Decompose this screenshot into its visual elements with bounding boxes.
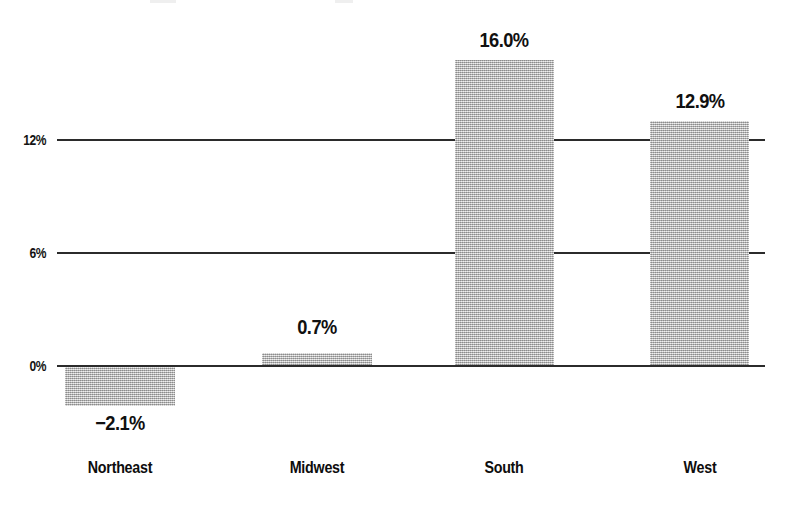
category-label-south: South xyxy=(454,459,555,476)
bar-south[interactable] xyxy=(455,60,554,366)
y-tick-label-12: 12% xyxy=(6,133,46,147)
plot-area: 12% 6% 0% −2.1% 0.7% 16.0% 12.9% Northea… xyxy=(0,0,793,509)
value-label-midwest: 0.7% xyxy=(265,316,369,337)
crop-artifact-right xyxy=(335,0,353,3)
value-label-northeast: −2.1% xyxy=(68,412,172,433)
bar-chart: 12% 6% 0% −2.1% 0.7% 16.0% 12.9% Northea… xyxy=(0,0,793,509)
value-label-west: 12.9% xyxy=(648,90,752,111)
bar-northeast[interactable] xyxy=(65,366,175,406)
crop-artifact-left xyxy=(150,0,176,3)
bar-west[interactable] xyxy=(650,121,749,366)
category-label-northeast: Northeast xyxy=(70,459,171,476)
category-label-west: West xyxy=(650,459,751,476)
category-label-midwest: Midwest xyxy=(267,459,368,476)
value-label-south: 16.0% xyxy=(452,29,556,50)
y-tick-label-0: 0% xyxy=(6,359,46,373)
y-tick-label-6: 6% xyxy=(6,246,46,260)
axis-baseline-zero xyxy=(57,365,765,367)
